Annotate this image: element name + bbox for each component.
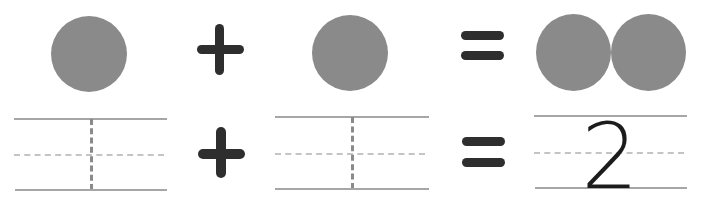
left-dot [51,16,127,92]
result-dot-1 [536,14,611,91]
right-dot [312,15,388,91]
result-answer: 2 [565,112,655,202]
result-dot-2 [611,14,686,91]
